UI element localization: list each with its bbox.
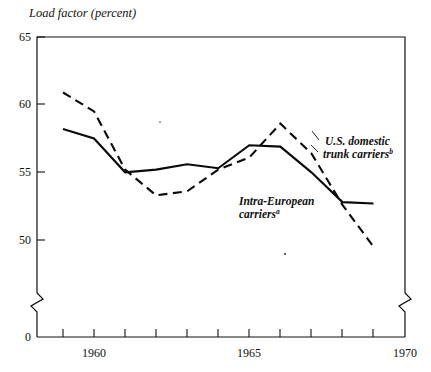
series-label-us-line2: trunk carriersb bbox=[323, 147, 393, 160]
load-factor-chart: Load factor (percent) 65 60 55 50 0 1960… bbox=[0, 0, 431, 372]
print-speck bbox=[284, 253, 286, 255]
x-tick-marks bbox=[63, 329, 373, 337]
y-tick-marks bbox=[37, 37, 45, 240]
x-tick-label-1960: 1960 bbox=[82, 346, 106, 360]
y-axis-break-right-icon bbox=[399, 293, 411, 337]
us-label-leader-2 bbox=[311, 145, 318, 152]
y-tick-label-55: 55 bbox=[19, 165, 31, 179]
series-label-eu-line2: carriersa bbox=[239, 207, 280, 220]
y-tick-label-0: 0 bbox=[25, 330, 31, 344]
series-label-us-line1: U.S. domestic bbox=[325, 135, 390, 147]
y-axis-break-icon bbox=[31, 293, 43, 337]
x-tick-label-1965: 1965 bbox=[237, 346, 261, 360]
series-line-us-domestic bbox=[63, 92, 374, 246]
y-tick-label-65: 65 bbox=[19, 30, 31, 44]
y-tick-label-50: 50 bbox=[19, 233, 31, 247]
x-tick-label-1970: 1970 bbox=[393, 346, 417, 360]
us-label-leader bbox=[312, 131, 319, 140]
y-tick-label-60: 60 bbox=[19, 97, 31, 111]
y-axis-title: Load factor (percent) bbox=[28, 6, 136, 20]
print-speck bbox=[159, 121, 161, 123]
